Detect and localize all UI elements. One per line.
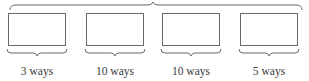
top-brace [10,2,302,10]
slot-label-2: 10 ways [80,64,150,78]
slot-brace-2 [85,49,145,56]
slot-brace-4 [239,49,299,56]
slot-box-1 [9,14,66,46]
slot-brace-1 [7,49,67,56]
slot-label-3: 10 ways [156,64,226,78]
slot-box-3 [163,14,220,46]
slot-box-4 [241,14,298,46]
slot-label-1: 3 ways [2,64,72,78]
slot-box-2 [87,14,144,46]
slot-brace-3 [161,49,221,56]
slot-label-4: 5 ways [234,64,304,78]
